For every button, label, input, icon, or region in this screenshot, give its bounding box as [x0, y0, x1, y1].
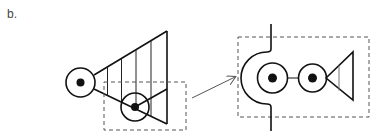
- fan-upper-edge: [94, 31, 167, 75]
- primary-node-dot: [77, 79, 85, 87]
- zoomed-node-2-dot: [308, 74, 317, 83]
- left-selection-box: [104, 82, 186, 130]
- zoom-arrow: [192, 77, 235, 98]
- diagram-canvas: [0, 0, 377, 139]
- right-figure: [238, 24, 369, 131]
- left-figure: [66, 31, 186, 130]
- zoomed-node-1-dot: [268, 74, 277, 83]
- secondary-node-dot: [131, 103, 139, 111]
